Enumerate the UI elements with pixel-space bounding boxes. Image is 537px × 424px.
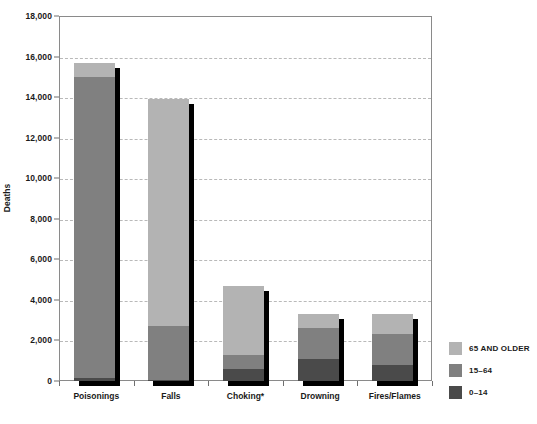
bar-group[interactable] (148, 99, 195, 381)
y-tick-label: 8,000 (30, 214, 52, 224)
bar-segment[interactable] (372, 334, 413, 364)
y-axis: Deaths 02,0004,0006,0008,00010,00012,000… (0, 0, 59, 424)
x-tick-label: Drowning (300, 391, 339, 401)
legend-label: 65 AND OLDER (469, 344, 530, 353)
bar-segment[interactable] (148, 380, 189, 381)
bar-segment[interactable] (74, 77, 115, 378)
bar-segment[interactable] (223, 369, 264, 381)
bar-segment[interactable] (148, 326, 189, 380)
legend-label: 0–14 (469, 388, 488, 397)
bar-group[interactable] (372, 314, 419, 381)
stacked-bar-chart: Deaths 02,0004,0006,0008,00010,00012,000… (0, 0, 537, 424)
bar-segment[interactable] (148, 99, 189, 326)
y-axis-title: Deaths (2, 184, 12, 212)
bar-segment[interactable] (223, 286, 264, 355)
legend-swatch-icon (449, 342, 462, 355)
bar-group[interactable] (298, 314, 345, 381)
y-tick-label: 16,000 (25, 52, 52, 62)
x-tick-mark (208, 381, 209, 386)
bar-segment[interactable] (298, 328, 339, 358)
bar-segment[interactable] (298, 314, 339, 328)
bar-group[interactable] (74, 63, 121, 381)
x-tick-mark (283, 381, 284, 386)
bar-segment[interactable] (74, 378, 115, 381)
y-tick-label: 4,000 (30, 295, 52, 305)
legend-swatch-icon (449, 386, 462, 399)
bar-segment[interactable] (223, 355, 264, 369)
gridline (60, 58, 431, 59)
bar-stack[interactable] (148, 99, 189, 381)
legend-item[interactable]: 15–64 (449, 361, 530, 379)
y-tick-label: 0 (47, 376, 52, 386)
bar-segment[interactable] (74, 63, 115, 77)
bar-stack[interactable] (223, 286, 264, 381)
x-tick-label: Fires/Flames (369, 391, 421, 401)
bar-segment[interactable] (372, 314, 413, 334)
y-tick-label: 14,000 (25, 92, 52, 102)
bar-stack[interactable] (372, 314, 413, 381)
legend-item[interactable]: 65 AND OLDER (449, 339, 530, 357)
bar-segment[interactable] (298, 359, 339, 381)
x-tick-label: Choking* (227, 391, 264, 401)
chart-legend: 65 AND OLDER15–640–14 (449, 339, 530, 405)
legend-label: 15–64 (469, 366, 492, 375)
x-tick-mark (134, 381, 135, 386)
y-tick-label: 18,000 (25, 11, 52, 21)
legend-item[interactable]: 0–14 (449, 383, 530, 401)
x-tick-label: Falls (161, 391, 180, 401)
y-tick-label: 6,000 (30, 254, 52, 264)
x-tick-label: Poisonings (73, 391, 119, 401)
y-tick-label: 10,000 (25, 173, 52, 183)
y-tick-label: 12,000 (25, 133, 52, 143)
x-tick-mark (432, 381, 433, 386)
x-tick-mark (357, 381, 358, 386)
x-tick-mark (59, 381, 60, 386)
y-tick-label: 2,000 (30, 335, 52, 345)
bar-stack[interactable] (298, 314, 339, 381)
bar-group[interactable] (223, 286, 270, 381)
bar-stack[interactable] (74, 63, 115, 381)
legend-swatch-icon (449, 364, 462, 377)
bar-segment[interactable] (372, 365, 413, 381)
